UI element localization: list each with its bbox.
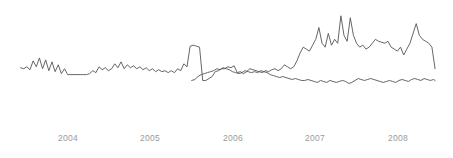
chart-plot-area <box>0 0 453 158</box>
series-line-lower <box>192 68 435 84</box>
series-group <box>21 16 436 84</box>
line-chart: 20042005200620072008 <box>0 0 453 158</box>
series-line-upper <box>21 16 436 81</box>
